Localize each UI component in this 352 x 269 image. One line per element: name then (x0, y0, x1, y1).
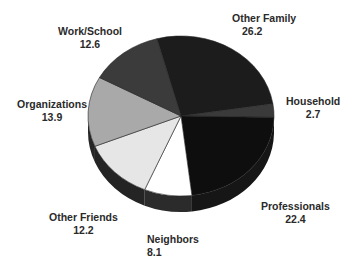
label-organizations: Organizations 13.9 (17, 98, 87, 124)
label-name: Work/School (58, 25, 122, 38)
label-neighbors: Neighbors 8.1 (147, 233, 199, 259)
label-name: Professionals (261, 200, 330, 213)
label-professionals: Professionals 22.4 (261, 200, 330, 226)
pie-slices (88, 36, 274, 196)
label-value: 13.9 (17, 111, 87, 124)
label-name: Other Family (232, 12, 296, 25)
label-value: 12.6 (58, 38, 122, 51)
label-other-family: Other Family 26.2 (232, 12, 296, 38)
label-name: Household (286, 95, 340, 108)
label-other-friends: Other Friends 12.2 (49, 211, 118, 237)
label-value: 8.1 (147, 246, 199, 259)
slice-professionals (181, 116, 274, 195)
label-name: Neighbors (147, 233, 199, 246)
label-name: Other Friends (49, 211, 118, 224)
label-value: 22.4 (261, 213, 330, 226)
label-value: 2.7 (286, 108, 340, 121)
label-work-school: Work/School 12.6 (58, 25, 122, 51)
label-value: 12.2 (49, 224, 118, 237)
label-household: Household 2.7 (286, 95, 340, 121)
label-value: 26.2 (232, 25, 296, 38)
label-name: Organizations (17, 98, 87, 111)
